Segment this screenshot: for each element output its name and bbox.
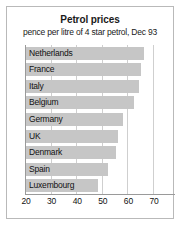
bar-category-label: Netherlands (29, 47, 73, 60)
bar-category-label: France (29, 63, 54, 76)
chart-header: Petrol prices pence per litre of 4 star … (7, 7, 173, 37)
x-tick-label: 30 (47, 196, 56, 206)
plot-area: NetherlandsFranceItalyBelgiumGermanyUKDe… (25, 45, 153, 194)
x-tick-label: 70 (149, 196, 158, 206)
x-tick-label: 50 (98, 196, 107, 206)
bar-row[interactable]: Germany (26, 113, 154, 126)
chart-title: Petrol prices (7, 14, 173, 25)
x-axis-tick-labels: 203040506070 (25, 196, 175, 210)
x-tick-label: 40 (73, 196, 82, 206)
bar-row[interactable]: UK (26, 130, 154, 143)
x-axis-line (25, 194, 175, 195)
bar-row[interactable]: Netherlands (26, 47, 154, 60)
bar-row[interactable]: France (26, 63, 154, 76)
x-tick-label: 20 (21, 196, 30, 206)
bar-row[interactable]: Italy (26, 80, 154, 93)
bar-category-label: Denmark (29, 146, 62, 159)
bar-row[interactable]: Spain (26, 163, 154, 176)
bar-category-label: Italy (29, 80, 44, 93)
bar-category-label: UK (29, 130, 40, 143)
bar-category-label: Germany (29, 113, 63, 126)
x-tick-label: 60 (124, 196, 133, 206)
chart-subtitle: pence per litre of 4 star petrol, Dec 93 (7, 27, 173, 37)
bar-row[interactable]: Luxembourg (26, 179, 154, 192)
bar-category-label: Luxembourg (29, 179, 74, 192)
bar-category-label: Belgium (29, 96, 58, 109)
bar-row[interactable]: Belgium (26, 96, 154, 109)
bar-category-label: Spain (29, 163, 50, 176)
chart-figure: Petrol prices pence per litre of 4 star … (6, 6, 174, 219)
bar-row[interactable]: Denmark (26, 146, 154, 159)
